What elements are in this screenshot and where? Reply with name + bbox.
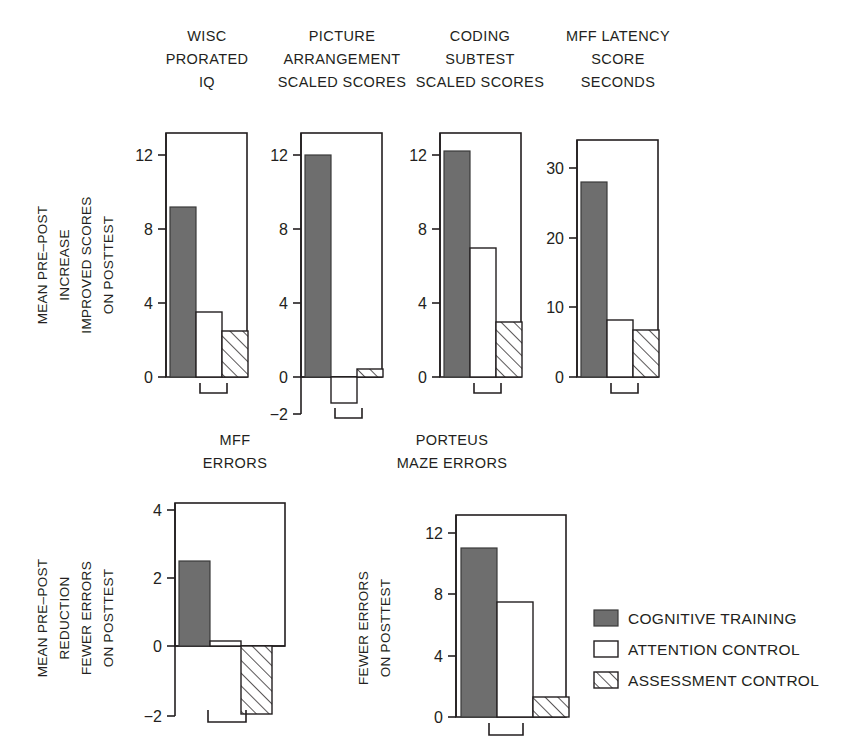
panel-title-line: MFF LATENCY [566,28,670,44]
panel-title-line: MFF [220,432,251,448]
legend-label-attention-control: ATTENTION CONTROL [628,641,800,658]
bar-cognitive-training [305,155,331,377]
panel-title-line: MAZE ERRORS [397,455,508,471]
y-tick-label: 0 [279,369,288,386]
panel-title-line: SCORE [591,51,645,67]
bar-cognitive-training [170,207,196,377]
panel-title-line: SUBTEST [445,51,515,67]
panel-title-line: SECONDS [581,74,656,90]
bar-attention-control [497,602,533,717]
y-axis-label-line: ON POSTTEST [101,569,116,668]
y-tick-label: 8 [279,221,288,238]
panel-title-line: WISC [187,28,226,44]
y-tick-label: 10 [546,299,564,316]
bar-attention-control [196,312,222,377]
y-tick-label: 0 [153,638,162,655]
bar-attention-control [210,641,241,646]
bar-assessment-control [633,330,659,377]
y-tick-label: 20 [546,230,564,247]
legend-swatch-attention-control [594,641,618,657]
y-axis-label-line: REDUCTION [57,577,72,660]
canvas-background [0,0,865,749]
y-tick-label: 12 [135,147,153,164]
y-tick-label: 12 [425,525,443,542]
y-axis-label-line: FEWER ERRORS [356,571,371,685]
legend-swatch-assessment-control [594,672,618,688]
y-axis-label-line: FEWER ERRORS [79,561,94,675]
legend-swatch-cognitive-training [594,610,618,626]
y-tick-label: 4 [144,295,153,312]
bar-attention-control [607,320,633,377]
bar-cognitive-training [444,151,470,377]
bar-attention-control [331,377,357,403]
y-tick-label: 12 [270,147,288,164]
bar-assessment-control [533,697,569,717]
y-tick-label: 8 [144,221,153,238]
bar-assessment-control [357,369,383,377]
bar-cognitive-training [461,548,497,717]
y-axis-label-line: INCREASE [57,229,72,300]
y-axis-label-line: MEAN PRE–POST [35,206,50,325]
bar-cognitive-training [179,561,210,646]
bar-attention-control [470,248,496,377]
y-tick-label: 4 [153,502,162,519]
y-axis-label-line: ON POSTTEST [378,579,393,678]
y-tick-label: 4 [279,295,288,312]
figure-panel-grid: WISC PRORATED IQ 12 8 4 0 MEAN PRE–POST … [0,0,865,749]
y-tick-label: 12 [409,147,427,164]
chart-svg: WISC PRORATED IQ 12 8 4 0 MEAN PRE–POST … [0,0,865,749]
y-tick-label: 8 [434,586,443,603]
y-tick-label: 0 [434,709,443,726]
y-tick-label: 0 [144,369,153,386]
y-axis-label-line: ON POSTTEST [101,216,116,315]
panel-title-line: CODING [450,28,510,44]
legend-label-assessment-control: ASSESSMENT CONTROL [628,672,819,689]
y-tick-label: −2 [144,708,162,725]
panel-title-line: PORTEUS [416,432,489,448]
y-tick-label: 0 [555,369,564,386]
y-tick-label: 30 [546,160,564,177]
panel-title-line: SCALED SCORES [416,74,545,90]
legend-label-cognitive-training: COGNITIVE TRAINING [628,610,797,627]
y-tick-label: 4 [434,648,443,665]
y-tick-label: 4 [418,295,427,312]
y-tick-label: 8 [418,221,427,238]
y-tick-label: 0 [418,369,427,386]
panel-title-line: PRORATED [166,51,249,67]
bar-assessment-control [496,322,522,377]
y-tick-label: 2 [153,570,162,587]
y-tick-label: −2 [270,406,288,423]
bar-cognitive-training [581,182,607,377]
panel-title-line: ARRANGEMENT [283,51,400,67]
bar-assessment-control [222,331,248,377]
legend: COGNITIVE TRAINING ATTENTION CONTROL ASS… [594,610,819,689]
panel-title-line: PICTURE [309,28,375,44]
y-axis-label-line: IMPROVED SCORES [79,196,94,333]
y-axis-label-line: MEAN PRE–POST [35,559,50,678]
panel-title-line: SCALED SCORES [278,74,407,90]
panel-title-line: ERRORS [203,455,267,471]
bar-assessment-control [241,646,272,714]
panel-title-line: IQ [199,74,215,90]
